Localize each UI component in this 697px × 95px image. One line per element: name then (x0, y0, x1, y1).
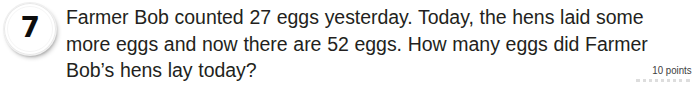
question-number-badge: 7 (4, 3, 56, 55)
question-text-line-3: Bob’s hens lay today? (66, 57, 694, 84)
dotted-rule (636, 79, 690, 85)
question-number-label: 7 (21, 14, 40, 42)
question-text-line-1: Farmer Bob counted 27 eggs yesterday. To… (66, 4, 694, 31)
question-item: 7 Farmer Bob counted 27 eggs yesterday. … (0, 0, 697, 95)
points-label: 10 points (653, 64, 692, 76)
question-text-line-2: more eggs and now there are 52 eggs. How… (66, 31, 694, 58)
question-text: Farmer Bob counted 27 eggs yesterday. To… (66, 4, 694, 84)
